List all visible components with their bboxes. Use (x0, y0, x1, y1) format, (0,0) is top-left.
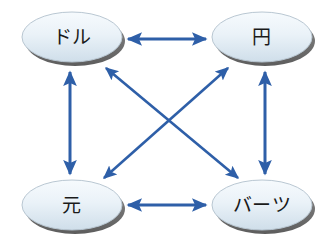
diagram-canvas: ドル 円 元 バーツ (0, 0, 336, 249)
edge-yen-yuan (104, 68, 228, 178)
edge-line-dollar-baht (106, 68, 238, 178)
node-baht[interactable]: バーツ (212, 180, 315, 234)
node-yuan[interactable]: 元 (22, 180, 125, 234)
edge-line-yen-yuan (104, 68, 228, 178)
edges-layer (70, 39, 265, 205)
nodes-layer: ドル 円 元 バーツ (22, 12, 315, 234)
node-yen[interactable]: 円 (212, 12, 315, 66)
node-yen-label: 円 (252, 26, 272, 48)
node-baht-label: バーツ (233, 194, 292, 216)
currency-exchange-diagram: ドル 円 元 バーツ (0, 0, 336, 249)
node-dollar-label: ドル (53, 26, 92, 48)
node-yuan-label: 元 (62, 194, 82, 216)
node-dollar[interactable]: ドル (22, 12, 125, 66)
edge-dollar-baht (106, 68, 238, 178)
